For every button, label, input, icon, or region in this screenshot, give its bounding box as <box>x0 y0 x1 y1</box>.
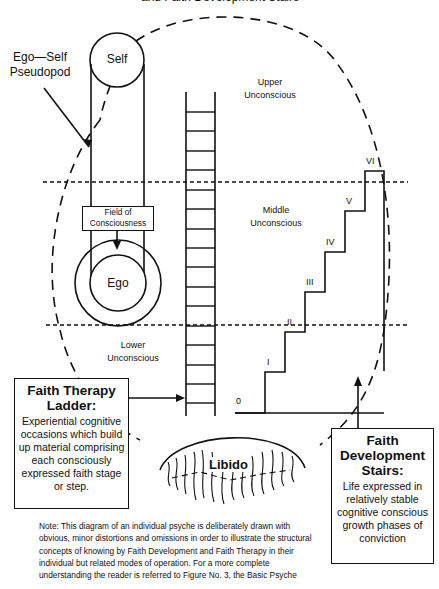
lower-line1: Lower <box>93 339 173 352</box>
field-of-consciousness-box: Field of Consciousness <box>82 206 154 231</box>
upper-line1: Upper <box>230 76 310 89</box>
faith-development-heading-line2: Development <box>332 448 433 463</box>
ladder-rungs <box>186 112 215 403</box>
faith-therapy-heading-line1: Faith Therapy <box>15 383 128 398</box>
faith-therapy-ladder-box: Faith Therapy Ladder: Experiential cogni… <box>14 378 129 509</box>
diagram-title: and Faith Development Stairs <box>120 0 320 4</box>
step-label-3: III <box>306 277 314 287</box>
step-label-6: VI <box>366 156 375 166</box>
ego-self-pseudopod-label: Ego—Self Pseudopod <box>2 50 78 80</box>
diagram-note: Note: This diagram of an individual psyc… <box>39 520 319 581</box>
upper-unconscious-label: Upper Unconscious <box>230 76 310 102</box>
pseudopod-label-line1: Ego—Self <box>2 50 78 65</box>
step-label-4: IV <box>326 237 335 247</box>
pseudopod-label-line2: Pseudopod <box>2 65 78 80</box>
lower-unconscious-label: Lower Unconscious <box>93 339 173 365</box>
middle-line2: Unconscious <box>236 217 316 230</box>
faith-development-heading-line1: Faith <box>332 433 433 448</box>
field-label-line1: Field of <box>83 207 153 218</box>
step-label-2: II <box>287 317 292 327</box>
lower-line2: Unconscious <box>93 352 173 365</box>
step-label-1: I <box>267 357 270 367</box>
step-label-5: V <box>346 196 352 206</box>
upper-line2: Unconscious <box>230 89 310 102</box>
middle-line1: Middle <box>236 204 316 217</box>
faith-development-heading-line3: Stairs: <box>332 463 433 478</box>
faith-therapy-heading-line2: Ladder: <box>15 398 128 413</box>
faith-development-stairs-box: Faith Development Stairs: Life expressed… <box>331 428 434 564</box>
self-label: Self <box>97 52 137 66</box>
field-label-line2: Consciousness <box>83 218 153 229</box>
ego-label: Ego <box>98 276 138 290</box>
faith-development-body: Life expressed in relatively stable cogn… <box>332 478 433 545</box>
middle-unconscious-label: Middle Unconscious <box>236 204 316 230</box>
faith-therapy-body: Experiential cognitive occasions which b… <box>15 413 128 493</box>
libido-label: Libido <box>208 457 249 472</box>
step-label-0: 0 <box>236 396 241 406</box>
